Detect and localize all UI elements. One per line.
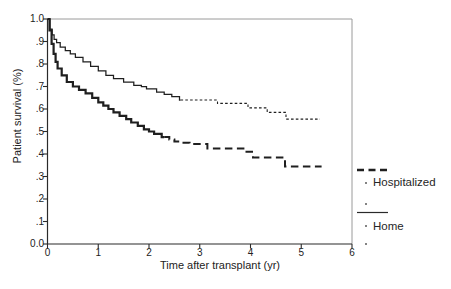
plot-area [0, 0, 451, 289]
x-tick-label: 3 [192, 247, 208, 259]
y-tick-label: .2 [16, 193, 44, 205]
x-tick-label: 2 [141, 247, 157, 259]
x-axis-title: Time after transplant (yr) [120, 259, 320, 271]
x-tick-label: 0 [40, 247, 56, 259]
legend-stray-dot [365, 182, 367, 184]
survival-figure: Patient survival (%) Time after transpla… [0, 0, 451, 289]
curve-home-solid-part [181, 100, 321, 119]
legend-stray-dot [365, 243, 367, 245]
legend-stray-dot [365, 203, 367, 205]
y-tick-label: .6 [16, 103, 44, 115]
curve-hospitalized-dashed-part [164, 137, 321, 166]
x-tick-label: 6 [344, 247, 360, 259]
x-tick-label: 4 [243, 247, 259, 259]
curve-hospitalized-solid-part [48, 19, 165, 137]
legend-stray-dot [365, 225, 367, 227]
y-tick-label: .5 [16, 126, 44, 138]
y-tick-label: .3 [16, 171, 44, 183]
legend-solid-line-sample [356, 210, 389, 215]
y-tick-label: .7 [16, 81, 44, 93]
legend-label-home: Home [373, 220, 404, 232]
curve-home-solid-part [48, 19, 181, 100]
x-tick-label: 5 [293, 247, 309, 259]
y-tick-label: 1.0 [16, 13, 44, 25]
y-tick-label: .9 [16, 36, 44, 48]
y-tick-label: .4 [16, 148, 44, 160]
x-tick-label: 1 [90, 247, 106, 259]
legend-dashed-line-sample [356, 167, 388, 173]
y-tick-label: .8 [16, 58, 44, 70]
y-tick-label: .1 [16, 216, 44, 228]
legend-label-hospitalized: Hospitalized [373, 176, 436, 188]
